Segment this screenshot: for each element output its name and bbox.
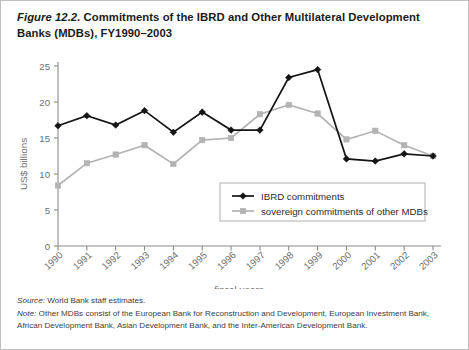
- x-axis-tick-label: 1996: [215, 249, 238, 271]
- data-point-marker: [55, 183, 60, 188]
- figure-number: Figure 12.2.: [17, 11, 80, 23]
- data-point-marker: [142, 143, 147, 148]
- note-label: Note:: [17, 309, 36, 318]
- explanatory-note: Note: Other MDBs consist of the European…: [17, 308, 455, 331]
- data-point-marker: [55, 122, 62, 129]
- x-axis-tick-label: 2001: [359, 249, 382, 271]
- y-axis-tick-label: 20: [39, 97, 50, 108]
- x-axis-title-text: fiscal years: [214, 284, 263, 289]
- data-point-marker: [84, 112, 91, 119]
- x-axis-tick-label: 1994: [157, 249, 181, 272]
- chart-legend: IBRD commitmentssovereign commitments of…: [220, 183, 428, 221]
- data-point-marker: [315, 111, 320, 116]
- source-label: Source:: [17, 296, 45, 305]
- x-axis-tick-label: 1995: [186, 249, 209, 271]
- data-point-marker: [257, 112, 262, 117]
- data-point-marker: [372, 158, 379, 165]
- x-axis-tick-label: 1997: [244, 249, 267, 271]
- legend-label: IBRD commitments: [261, 191, 345, 202]
- legend-item[interactable]: sovereign commitments of other MDBs: [232, 206, 428, 217]
- data-point-marker: [401, 143, 406, 148]
- y-axis: 0510152025: [39, 61, 58, 252]
- data-point-marker: [314, 66, 321, 73]
- y-axis-title: US$ billions: [18, 138, 29, 190]
- legend-label: sovereign commitments of other MDBs: [261, 206, 428, 217]
- x-axis-tick-label: 1991: [70, 249, 93, 271]
- data-point-marker: [257, 127, 264, 134]
- x-axis-tick-label: 1990: [42, 249, 65, 271]
- chart-plot-area: 0510152025 19901991199219931994199519961…: [1, 49, 469, 289]
- data-point-marker: [200, 137, 205, 142]
- source-note: Source: World Bank staff estimates.: [17, 295, 455, 306]
- y-axis-tick-label: 25: [39, 61, 50, 72]
- data-point-marker: [171, 161, 176, 166]
- data-point-marker: [344, 137, 349, 142]
- data-point-marker: [286, 102, 291, 107]
- data-point-marker: [373, 128, 378, 133]
- y-axis-tick-label: 5: [45, 205, 50, 216]
- x-axis-tick-label: 1992: [99, 249, 122, 271]
- figure-container: Figure 12.2. Commitments of the IBRD and…: [0, 0, 469, 350]
- data-series-group: [55, 66, 437, 188]
- line-chart-svg: 0510152025 19901991199219931994199519961…: [1, 49, 469, 289]
- x-axis-tick-label: 1998: [272, 249, 295, 271]
- series-other-mdbs: [55, 102, 435, 188]
- data-point-marker: [112, 122, 119, 129]
- x-axis-tick-label: 2003: [417, 249, 440, 271]
- data-point-marker: [343, 156, 350, 163]
- y-axis-title-text: US$ billions: [18, 138, 29, 190]
- x-axis-tick-label: 1993: [128, 249, 151, 271]
- x-axis: 1990199119921993199419951996199719981999…: [42, 246, 441, 272]
- series-ibrd: [55, 66, 437, 164]
- source-text: World Bank staff estimates.: [45, 296, 145, 305]
- figure-footnotes: Source: World Bank staff estimates. Note…: [17, 295, 455, 331]
- x-axis-tick-label: 1999: [301, 249, 324, 271]
- data-point-marker: [285, 74, 292, 81]
- x-axis-title: fiscal years: [214, 284, 263, 289]
- note-text: Other MDBs consist of the European Bank …: [17, 309, 429, 329]
- x-axis-tick-label: 2000: [330, 249, 353, 271]
- data-point-marker: [84, 161, 89, 166]
- y-axis-tick-label: 15: [39, 133, 50, 144]
- data-point-marker: [401, 151, 408, 158]
- x-axis-tick-label: 2002: [388, 249, 411, 271]
- y-axis-tick-label: 0: [45, 241, 50, 252]
- data-point-marker: [113, 152, 118, 157]
- data-point-marker: [228, 135, 233, 140]
- y-axis-tick-label: 10: [39, 169, 50, 180]
- figure-title: Figure 12.2. Commitments of the IBRD and…: [17, 10, 447, 41]
